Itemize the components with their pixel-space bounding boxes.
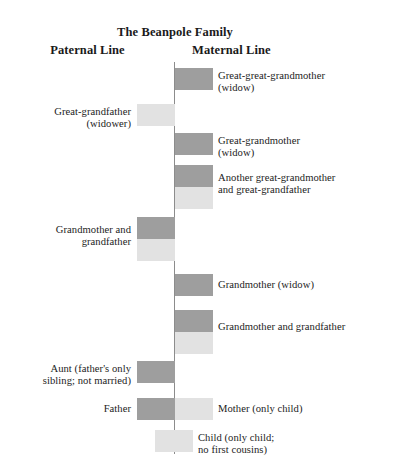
- person-bar-great-grandfather: [137, 104, 175, 126]
- person-label-great-grandfather: Great-grandfather(widower): [8, 106, 131, 131]
- person-label-line1: Grandmother and grandfather: [218, 321, 345, 333]
- person-bar-mother: [175, 398, 213, 420]
- person-label-line2: (widower): [8, 118, 131, 130]
- person-label-maternal-grandmother: Grandmother (widow): [218, 279, 314, 291]
- person-label-maternal-grandparents: Grandmother and grandfather: [218, 321, 345, 333]
- person-label-father: Father: [8, 403, 131, 415]
- person-bar-maternal-grandparents-1: [175, 332, 213, 354]
- person-bar-another-great-grandparents-0: [175, 165, 213, 187]
- person-bar-child: [155, 430, 193, 452]
- person-label-aunt: Aunt (father's onlysibling; not married): [8, 363, 131, 388]
- person-bar-father: [137, 398, 175, 420]
- person-label-mother: Mother (only child): [218, 403, 303, 415]
- person-bar-great-great-grandmother: [175, 68, 213, 90]
- family-tree-diagram: The Beanpole Family Paternal Line Matern…: [0, 0, 398, 472]
- person-label-line2: (widow): [218, 147, 300, 159]
- person-label-line1: Great-grandfather: [8, 106, 131, 118]
- person-bar-paternal-grandparents-0: [137, 217, 175, 239]
- person-label-line2: sibling; not married): [8, 375, 131, 387]
- person-label-line2: and great-grandfather: [218, 184, 335, 196]
- person-bar-aunt: [137, 361, 175, 383]
- person-bar-maternal-grandmother: [175, 274, 213, 296]
- person-label-line1: Great-great-grandmother: [218, 70, 325, 82]
- person-label-line1: Grandmother (widow): [218, 279, 314, 291]
- person-label-line1: Father: [8, 403, 131, 415]
- person-label-line2: no first cousins): [198, 444, 274, 456]
- person-label-paternal-grandparents: Grandmother andgrandfather: [8, 224, 131, 249]
- person-label-great-great-grandmother: Great-great-grandmother(widow): [218, 70, 325, 95]
- person-label-line2: (widow): [218, 82, 325, 94]
- person-label-line1: Child (only child;: [198, 432, 274, 444]
- column-header-maternal: Maternal Line: [192, 43, 352, 58]
- person-label-child: Child (only child;no first cousins): [198, 432, 274, 457]
- person-bar-great-grandmother: [175, 133, 213, 155]
- person-label-line1: Great-grandmother: [218, 135, 300, 147]
- person-label-line2: grandfather: [8, 236, 131, 248]
- person-label-line1: Mother (only child): [218, 403, 303, 415]
- person-label-line1: Another great-grandmother: [218, 172, 335, 184]
- person-label-line1: Grandmother and: [8, 224, 131, 236]
- person-label-great-grandmother: Great-grandmother(widow): [218, 135, 300, 160]
- person-label-another-great-grandparents: Another great-grandmotherand great-grand…: [218, 172, 335, 197]
- person-bar-maternal-grandparents-0: [175, 310, 213, 332]
- person-bar-another-great-grandparents-1: [175, 187, 213, 209]
- person-bar-paternal-grandparents-1: [137, 239, 175, 261]
- person-label-line1: Aunt (father's only: [8, 363, 131, 375]
- page-title: The Beanpole Family: [0, 25, 350, 40]
- column-header-paternal: Paternal Line: [0, 43, 175, 58]
